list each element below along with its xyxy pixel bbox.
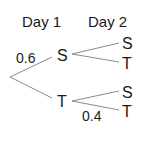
node-day1-s: S <box>57 47 68 64</box>
node-day2-ss: S <box>122 35 133 52</box>
node-day1-t: T <box>57 93 67 110</box>
header-day-2: Day 2 <box>88 13 127 30</box>
node-day2-st: T <box>122 55 132 72</box>
node-day2-tt: T <box>122 103 132 120</box>
node-day2-ts: S <box>122 84 133 101</box>
probability-tree-diagram: Day 1 Day 2 S T 0.6 0.4 S T S T <box>0 0 144 142</box>
header-day-1: Day 1 <box>22 13 61 30</box>
branch-s-to-s <box>72 43 119 54</box>
probability-t-to-t: 0.4 <box>82 108 102 124</box>
probability-root-to-s: 0.6 <box>16 50 36 66</box>
branch-s-to-t <box>72 54 119 62</box>
branch-root-to-t <box>10 77 52 98</box>
branch-t-to-s <box>72 91 119 101</box>
